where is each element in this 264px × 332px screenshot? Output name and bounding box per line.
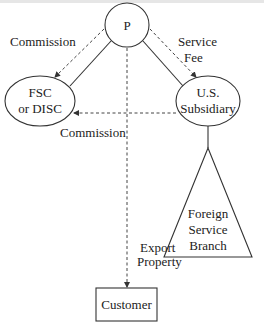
commission-label-bottom: Commission (60, 125, 126, 140)
fsc-label-line2: or DISC (18, 101, 62, 116)
export-label-line1: Export (140, 240, 176, 255)
commission-label-top: Commission (10, 34, 76, 49)
branch-label-line1: Foreign (188, 206, 229, 221)
node-parent: P (105, 3, 149, 47)
ownership-line-p-subsidiary (143, 41, 183, 86)
fsc-label-line1: FSC (28, 85, 51, 100)
subsidiary-label-line2: Subsidiary (180, 101, 236, 116)
subsidiary-label-line1: U.S. (196, 85, 219, 100)
export-label-line2: Property (137, 254, 182, 269)
ownership-flow-diagram: P FSC or DISC U.S. Subsidiary Foreign Se… (0, 0, 264, 332)
parent-label: P (123, 18, 130, 33)
ownership-line-p-fsc (70, 41, 111, 86)
customer-label: Customer (101, 297, 152, 312)
branch-label-line3: Branch (189, 238, 227, 253)
service-fee-label-line1: Service (178, 34, 217, 49)
branch-label-line2: Service (189, 222, 228, 237)
node-customer: Customer (96, 288, 157, 321)
node-foreign-service-branch: Foreign Service Branch (164, 148, 252, 257)
node-fsc-disc: FSC or DISC (5, 76, 75, 126)
service-fee-label-line2: Fee (184, 50, 203, 65)
node-us-subsidiary: U.S. Subsidiary (176, 76, 240, 126)
